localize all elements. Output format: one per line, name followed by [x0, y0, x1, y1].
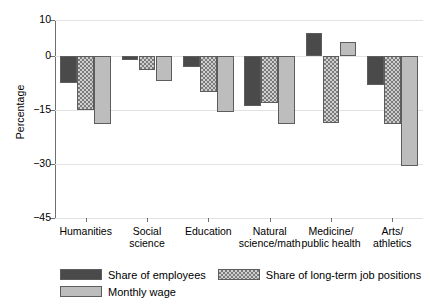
bar: [77, 56, 94, 110]
chart-legend: Share of employees Share of long-term jo…: [60, 266, 390, 300]
legend-swatch-monthly-wage: [60, 286, 102, 297]
x-tick: [270, 218, 271, 222]
gridline--30: [55, 164, 423, 165]
gridline--45: [55, 218, 423, 219]
legend-row-bottom: Monthly wage: [60, 283, 390, 300]
bar: [200, 56, 217, 92]
bar: [156, 56, 173, 81]
bar: [306, 33, 323, 56]
legend-row-top: Share of employees Share of long-term jo…: [60, 266, 390, 283]
x-tick: [392, 218, 393, 222]
bar: [122, 56, 139, 60]
y-tick-label--30: −30: [11, 158, 51, 169]
bar: [278, 56, 295, 124]
y-tick-label--15: −15: [11, 104, 51, 115]
gridline-10: [55, 20, 423, 21]
legend-label-share-of-employees: Share of employees: [108, 269, 206, 281]
bar: [323, 56, 340, 123]
bar-chart: Percentage 100−15−30−45 HumanitiesSocial…: [0, 0, 430, 308]
y-tick-label--45: −45: [11, 212, 51, 223]
x-axis-label: Arts/ athletics: [347, 225, 430, 249]
legend-label-monthly-wage: Monthly wage: [108, 286, 176, 298]
x-tick: [147, 218, 148, 222]
y-tick-label-0: 0: [11, 50, 51, 61]
bar: [217, 56, 234, 112]
x-tick: [86, 218, 87, 222]
bar: [367, 56, 384, 85]
bar: [401, 56, 418, 166]
legend-label-share-of-long-term-job-positions: Share of long-term job positions: [266, 269, 421, 281]
x-tick: [331, 218, 332, 222]
bar: [60, 56, 77, 83]
plot-area: 100−15−30−45: [55, 20, 423, 218]
bar: [139, 56, 156, 70]
bar: [244, 56, 261, 106]
bar: [384, 56, 401, 124]
bar: [261, 56, 278, 103]
legend-swatch-share-of-long-term-job-positions: [218, 269, 260, 280]
y-tick-label-10: 10: [11, 14, 51, 25]
x-tick: [208, 218, 209, 222]
bar: [183, 56, 200, 67]
legend-swatch-share-of-employees: [60, 269, 102, 280]
bar: [94, 56, 111, 124]
y-axis-line: [55, 20, 56, 218]
bar: [340, 42, 357, 56]
